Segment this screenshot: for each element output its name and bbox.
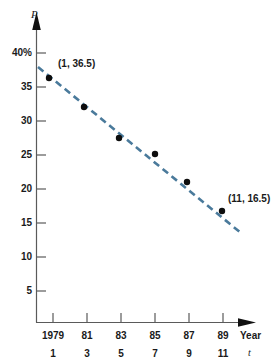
y-tick-label: 25	[6, 150, 32, 160]
x-axis-ticks	[53, 313, 223, 323]
y-tick-label: 35	[6, 82, 32, 92]
x-tick-label-t: 11	[203, 349, 243, 359]
trend-line-dashed	[38, 67, 241, 233]
data-point	[219, 208, 225, 214]
y-tick-label: 20	[6, 184, 32, 194]
y-axis-ticks	[37, 53, 47, 291]
annotation-first-point: (1, 36.5)	[58, 59, 95, 69]
x-tick-label-year: 89	[203, 331, 243, 341]
y-tick-label: 15	[6, 218, 32, 228]
data-point	[152, 151, 158, 157]
data-point	[184, 179, 190, 185]
y-tick-label: 40%	[6, 48, 32, 58]
x-axis-label: Year	[240, 331, 261, 341]
data-point	[81, 104, 87, 110]
x-axis-arrowhead	[238, 318, 256, 327]
y-axis-label: P	[31, 9, 38, 20]
y-tick-label: 30	[6, 116, 32, 126]
y-tick-label: 5	[6, 286, 32, 296]
data-points	[46, 75, 225, 214]
x-axis-variable-label: t	[248, 348, 251, 358]
scatter-plot-figure: P 40% 35 30 25 20 15 10 5 1979 81 83 85 …	[0, 0, 280, 363]
y-tick-label: 10	[6, 252, 32, 262]
annotation-last-point: (11, 16.5)	[228, 194, 270, 204]
data-point	[116, 135, 122, 141]
data-point	[46, 75, 52, 81]
plot-canvas	[0, 0, 280, 363]
